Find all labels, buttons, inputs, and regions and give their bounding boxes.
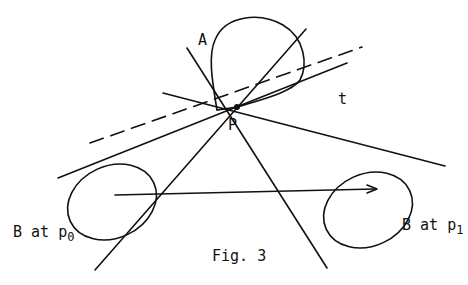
label-b-at-p0-subscript: 0 [67, 230, 74, 244]
translation-arrow [115, 189, 375, 195]
label-b-at-p1: B at p1 [402, 218, 463, 233]
ellipse-b-p1 [311, 158, 425, 262]
line-upper-left-lower-right [187, 48, 327, 268]
label-t: t [338, 92, 347, 107]
label-b-at-p1-subscript: 1 [456, 223, 463, 237]
tangent-b1-upper [163, 93, 445, 166]
tangent-t-dashed [90, 47, 362, 143]
tangent-b0-upper [58, 63, 347, 178]
label-a: A [198, 33, 207, 48]
label-b-at-p0-text: B at p [13, 223, 67, 241]
label-b-at-p1-text: B at p [402, 216, 456, 234]
figure-caption: Fig. 3 [212, 249, 266, 264]
point-p [235, 105, 239, 109]
label-b-at-p0: B at p0 [13, 225, 74, 240]
line-lower-left-upper-right [95, 29, 306, 270]
label-p: P [228, 118, 237, 133]
